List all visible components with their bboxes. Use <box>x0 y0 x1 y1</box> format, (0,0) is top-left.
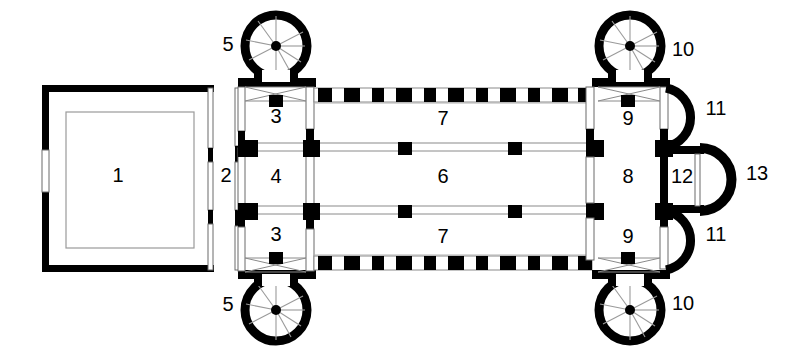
stair-tower-10-north <box>599 15 661 82</box>
stair-tower-10-south <box>599 274 661 341</box>
label-10-north: 10 <box>672 38 694 60</box>
label-11-north: 11 <box>706 97 727 119</box>
arcade-pier <box>303 140 320 157</box>
label-13: 13 <box>746 162 768 184</box>
stair-tower-5-south <box>245 274 307 341</box>
east-vault-keystone-south <box>621 252 635 264</box>
label-12: 12 <box>671 165 693 187</box>
arcade-pier <box>238 140 258 157</box>
label-9-north: 9 <box>622 107 633 129</box>
label-3-north: 3 <box>270 105 281 127</box>
label-10-south: 10 <box>672 292 694 314</box>
stair-tower-5-north <box>245 15 307 82</box>
label-2: 2 <box>220 164 231 186</box>
north-aisle-outer-wall <box>314 88 592 102</box>
label-5-north: 5 <box>222 33 233 55</box>
arcade-pier <box>586 203 604 220</box>
arcade-pier <box>398 142 412 155</box>
east-vault-keystone-north <box>621 95 635 107</box>
label-1: 1 <box>112 164 123 186</box>
label-4: 4 <box>270 165 281 187</box>
south-aisle-outer-wall <box>314 256 592 270</box>
label-7-south: 7 <box>437 225 448 247</box>
floor-plan-canvas: 1 2 3 3 4 5 5 6 7 7 8 9 9 10 10 11 11 12… <box>0 0 803 352</box>
arcade-pier <box>303 203 320 220</box>
label-5-south: 5 <box>222 293 233 315</box>
arcade-pier <box>238 203 258 220</box>
west-vault-keystone-south <box>269 252 283 264</box>
label-9-south: 9 <box>622 225 633 247</box>
label-6: 6 <box>437 165 448 187</box>
label-8: 8 <box>622 165 633 187</box>
label-11-south: 11 <box>706 223 727 245</box>
arcade-pier <box>508 205 522 218</box>
arcade-pier <box>398 205 412 218</box>
label-7-north: 7 <box>437 107 448 129</box>
label-3-south: 3 <box>270 223 281 245</box>
floor-plan-drawing: 1 2 3 3 4 5 5 6 7 7 8 9 9 10 10 11 11 12… <box>0 0 803 352</box>
arcade-pier <box>508 142 522 155</box>
